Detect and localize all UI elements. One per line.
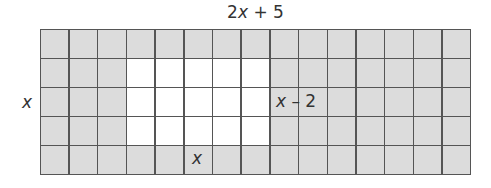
shaded-cell xyxy=(443,146,470,174)
shaded-cell xyxy=(443,117,470,145)
shaded-cell xyxy=(328,146,355,174)
shaded-cell xyxy=(443,30,470,58)
outer-width-constant: + 5 xyxy=(248,2,284,22)
shaded-cell xyxy=(299,59,326,87)
shaded-cell xyxy=(443,59,470,87)
unshaded-cell xyxy=(156,88,183,116)
unshaded-cell xyxy=(242,59,269,87)
shaded-cell xyxy=(41,117,68,145)
shaded-cell xyxy=(414,146,441,174)
shaded-cell xyxy=(98,59,125,87)
shaded-cell xyxy=(385,30,412,58)
shaded-cell xyxy=(98,117,125,145)
inner-width-label: x xyxy=(192,150,202,167)
shaded-cell xyxy=(70,88,97,116)
shaded-cell xyxy=(156,146,183,174)
inner-height-variable: x xyxy=(276,91,286,111)
shaded-cell xyxy=(185,30,212,58)
unshaded-cell xyxy=(185,117,212,145)
unshaded-cell xyxy=(213,59,240,87)
outer-width-coefficient: 2 xyxy=(227,2,238,22)
shaded-cell xyxy=(127,146,154,174)
shaded-cell xyxy=(328,88,355,116)
unshaded-cell xyxy=(127,88,154,116)
shaded-cell xyxy=(70,30,97,58)
shaded-cell xyxy=(156,30,183,58)
shaded-cell xyxy=(70,117,97,145)
inner-height-constant: – 2 xyxy=(286,91,316,111)
shaded-cell xyxy=(242,146,269,174)
shaded-cell xyxy=(271,59,298,87)
shaded-cell xyxy=(443,88,470,116)
shaded-cell xyxy=(41,146,68,174)
shaded-cell xyxy=(98,146,125,174)
outer-width-label: 2x + 5 xyxy=(0,4,491,21)
shaded-cell xyxy=(385,146,412,174)
unshaded-cell xyxy=(242,117,269,145)
shaded-cell xyxy=(357,59,384,87)
shaded-cell xyxy=(357,88,384,116)
shaded-cell xyxy=(414,30,441,58)
shaded-cell xyxy=(299,146,326,174)
shaded-cell xyxy=(213,146,240,174)
shaded-cell xyxy=(41,30,68,58)
shaded-cell xyxy=(98,88,125,116)
unshaded-cell xyxy=(185,88,212,116)
shaded-cell xyxy=(242,30,269,58)
shaded-cell xyxy=(127,30,154,58)
unshaded-cell xyxy=(213,88,240,116)
unshaded-cell xyxy=(185,59,212,87)
shaded-cell xyxy=(328,117,355,145)
shaded-cell xyxy=(385,88,412,116)
shaded-cell xyxy=(70,59,97,87)
inner-height-label: x – 2 xyxy=(276,93,316,110)
shaded-cell xyxy=(41,88,68,116)
shaded-cell xyxy=(271,117,298,145)
shaded-cell xyxy=(357,30,384,58)
unshaded-cell xyxy=(213,117,240,145)
unshaded-cell xyxy=(127,59,154,87)
unshaded-cell xyxy=(127,117,154,145)
unshaded-cell xyxy=(242,88,269,116)
shaded-cell xyxy=(271,146,298,174)
shaded-cell xyxy=(70,146,97,174)
shaded-cell xyxy=(385,59,412,87)
area-grid xyxy=(40,29,471,175)
outer-height-variable: x xyxy=(22,92,32,112)
shaded-cell xyxy=(414,117,441,145)
unshaded-cell xyxy=(156,59,183,87)
shaded-cell xyxy=(385,117,412,145)
shaded-cell xyxy=(98,30,125,58)
shaded-cell xyxy=(357,117,384,145)
shaded-cell xyxy=(299,30,326,58)
inner-width-variable: x xyxy=(192,148,202,168)
shaded-cell xyxy=(328,30,355,58)
outer-width-variable: x xyxy=(238,2,248,22)
shaded-cell xyxy=(299,117,326,145)
outer-height-label: x xyxy=(22,94,32,111)
shaded-cell xyxy=(213,30,240,58)
shaded-cell xyxy=(414,59,441,87)
shaded-cell xyxy=(328,59,355,87)
unshaded-cell xyxy=(156,117,183,145)
shaded-cell xyxy=(41,59,68,87)
shaded-cell xyxy=(271,30,298,58)
shaded-cell xyxy=(357,146,384,174)
shaded-cell xyxy=(414,88,441,116)
